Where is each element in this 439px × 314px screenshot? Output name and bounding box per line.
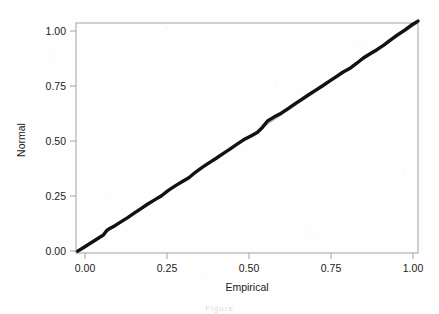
pp-plot-figure: 1.00 0.75 0.50 0.25 0.00 0.00 0.25 0.50 … — [0, 0, 439, 314]
x-tick-label-3: 0.75 — [321, 262, 342, 274]
pp-curve-series — [78, 21, 418, 251]
y-tick-label-1: 0.25 — [46, 190, 67, 202]
y-tick-label-4: 1.00 — [46, 25, 67, 37]
y-tick-label-0: 0.00 — [46, 245, 67, 257]
x-axis-tick-labels: 0.00 0.25 0.50 0.75 1.00 — [75, 262, 424, 274]
x-axis-title: Empirical — [225, 281, 268, 293]
x-tick-label-2: 0.50 — [239, 262, 260, 274]
y-axis-ticks — [70, 31, 76, 251]
caption-fragment: Figure — [0, 304, 439, 313]
y-axis-tick-labels: 1.00 0.75 0.50 0.25 0.00 — [46, 25, 67, 257]
x-axis-ticks — [85, 253, 413, 259]
x-tick-label-0: 0.00 — [75, 262, 96, 274]
y-tick-label-2: 0.50 — [46, 135, 67, 147]
x-tick-label-1: 0.25 — [157, 262, 178, 274]
data-layer — [76, 21, 418, 253]
y-tick-label-3: 0.75 — [46, 80, 67, 92]
x-tick-label-4: 1.00 — [403, 262, 424, 274]
y-axis-title: Normal — [15, 123, 27, 157]
plot-canvas: 1.00 0.75 0.50 0.25 0.00 0.00 0.25 0.50 … — [0, 0, 439, 314]
